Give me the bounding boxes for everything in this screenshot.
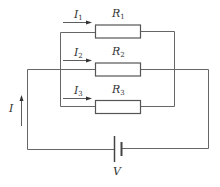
resistor-r1 bbox=[96, 25, 141, 38]
arrowhead-icon bbox=[86, 59, 92, 63]
label-i2: I2 bbox=[73, 46, 83, 60]
arrowhead-icon bbox=[86, 97, 92, 101]
label-i1: I1 bbox=[73, 8, 83, 22]
arrowhead-icon bbox=[20, 95, 24, 101]
label-i3: I3 bbox=[73, 84, 83, 98]
label-r1: R1 bbox=[111, 7, 125, 21]
label-r2: R2 bbox=[111, 45, 125, 59]
circuit-diagram: I1 R1 I2 R2 I3 R3 I V bbox=[0, 0, 220, 187]
label-voltage: V bbox=[113, 165, 122, 178]
label-r3: R3 bbox=[111, 83, 125, 97]
resistor-r2 bbox=[96, 63, 141, 76]
resistor-r3 bbox=[96, 101, 141, 114]
label-total-current: I bbox=[8, 102, 14, 115]
arrowhead-icon bbox=[86, 21, 92, 25]
